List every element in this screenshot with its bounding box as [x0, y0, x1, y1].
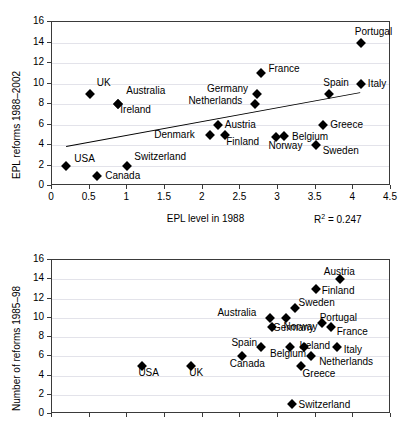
- data-point-label: Sweden: [299, 297, 335, 308]
- data-point-label: Australia: [126, 85, 165, 96]
- data-point-label: Portugal: [320, 312, 357, 323]
- data-point-label: UK: [189, 367, 203, 378]
- data-point-label: Netherlands: [188, 95, 242, 106]
- y-tick-label: 12: [22, 293, 44, 303]
- x-tick-mark: [126, 413, 127, 417]
- x-tick-label: 1: [111, 192, 141, 202]
- x-tick-mark: [202, 413, 203, 417]
- y-tick-mark: [47, 42, 51, 43]
- x-tick-mark: [89, 185, 90, 189]
- gridline: [52, 376, 389, 377]
- data-point-label: Italy: [344, 344, 362, 355]
- x-tick-mark: [239, 413, 240, 417]
- y-tick-mark: [47, 165, 51, 166]
- data-point-marker: [266, 313, 276, 323]
- data-point-marker: [256, 68, 266, 78]
- data-point-label: Finland: [226, 136, 259, 147]
- data-point-label: Spain: [231, 337, 257, 348]
- x-tick-label: 4: [337, 192, 367, 202]
- y-tick-mark: [47, 83, 51, 84]
- data-point-marker: [326, 322, 336, 332]
- data-point-marker: [92, 171, 102, 181]
- y-tick-label: 16: [22, 254, 44, 264]
- x-tick-label: 1.5: [149, 192, 179, 202]
- data-point-marker: [85, 89, 95, 99]
- x-tick-label: 3.5: [300, 192, 330, 202]
- chart-number-of-reforms-1985-98: USAUKCanadaSpainAustraliaGermanyBelgiumN…: [0, 230, 406, 429]
- y-tick-label: 8: [22, 98, 44, 108]
- x-tick-mark: [315, 185, 316, 189]
- data-point-label: Sweden: [323, 145, 359, 156]
- x-tick-mark: [277, 185, 278, 189]
- x-axis-label-top: EPL level in 1988: [126, 213, 286, 224]
- y-tick-label: 8: [22, 331, 44, 341]
- data-point-label: Switzerland: [299, 399, 351, 410]
- data-point-label: UK: [97, 77, 111, 88]
- data-point-label: Greece: [303, 368, 336, 379]
- y-tick-label: 14: [22, 273, 44, 283]
- data-point-marker: [256, 342, 266, 352]
- data-point-label: Ireland: [300, 340, 331, 351]
- y-tick-label: 14: [22, 37, 44, 47]
- x-tick-mark: [390, 413, 391, 417]
- x-tick-label: 0.5: [74, 192, 104, 202]
- x-tick-mark: [352, 413, 353, 417]
- y-tick-label: 4: [22, 370, 44, 380]
- y-tick-mark: [47, 317, 51, 318]
- data-point-marker: [318, 120, 328, 130]
- chart-epl-reforms-1988-2002: USACanadaUKAustraliaIrelandSwitzerlandDe…: [0, 0, 406, 230]
- x-tick-mark: [390, 185, 391, 189]
- data-point-label: Ireland: [120, 104, 151, 115]
- x-tick-mark: [352, 185, 353, 189]
- x-tick-label: 0: [36, 192, 66, 202]
- y-axis-label-top: EPL reforms 1988–2002: [11, 71, 22, 179]
- y-tick-mark: [47, 62, 51, 63]
- x-tick-label: 3: [262, 192, 292, 202]
- x-tick-mark: [164, 413, 165, 417]
- data-point-label: Austria: [324, 266, 355, 277]
- gridline: [52, 63, 389, 64]
- y-tick-label: 0: [22, 408, 44, 418]
- y-tick-mark: [47, 298, 51, 299]
- data-point-marker: [287, 399, 297, 409]
- data-point-marker: [356, 79, 366, 89]
- plot-area-top: USACanadaUKAustraliaIrelandSwitzerlandDe…: [51, 21, 390, 185]
- gridline: [52, 395, 389, 396]
- data-point-label: Belgium: [292, 131, 328, 142]
- data-point-marker: [356, 38, 366, 48]
- y-tick-mark: [47, 103, 51, 104]
- y-tick-label: 2: [22, 160, 44, 170]
- x-tick-label: 2: [187, 192, 217, 202]
- y-tick-mark: [47, 394, 51, 395]
- gridline: [52, 166, 389, 167]
- data-point-label: Greece: [330, 119, 363, 130]
- x-tick-mark: [126, 185, 127, 189]
- y-axis-label-bottom: Number of reforms 1985–98: [11, 286, 22, 411]
- data-point-label: Spain: [323, 77, 349, 88]
- y-tick-mark: [47, 144, 51, 145]
- data-point-label: France: [337, 326, 368, 337]
- data-point-label: France: [268, 63, 299, 74]
- data-point-marker: [332, 342, 342, 352]
- data-point-marker: [252, 89, 262, 99]
- x-tick-mark: [239, 185, 240, 189]
- gridline: [52, 43, 389, 44]
- data-point-label: USA: [138, 367, 159, 378]
- r-squared-annotation: R2 = 0.247: [314, 213, 362, 225]
- data-point-marker: [213, 120, 223, 130]
- y-tick-label: 16: [22, 16, 44, 26]
- y-tick-label: 6: [22, 350, 44, 360]
- x-tick-mark: [277, 413, 278, 417]
- data-point-label: Canada: [230, 358, 265, 369]
- y-tick-mark: [47, 21, 51, 22]
- x-tick-mark: [51, 413, 52, 417]
- data-point-marker: [250, 99, 260, 109]
- two-panel-scatter-figure: USACanadaUKAustraliaIrelandSwitzerlandDe…: [0, 0, 406, 429]
- x-tick-label: 2.5: [224, 192, 254, 202]
- x-tick-mark: [89, 413, 90, 417]
- plot-area-bottom: USAUKCanadaSpainAustraliaGermanyBelgiumN…: [51, 259, 390, 413]
- gridline: [52, 299, 389, 300]
- x-tick-mark: [51, 185, 52, 189]
- data-point-label: Portugal: [355, 26, 392, 37]
- data-point-label: Austria: [225, 119, 256, 130]
